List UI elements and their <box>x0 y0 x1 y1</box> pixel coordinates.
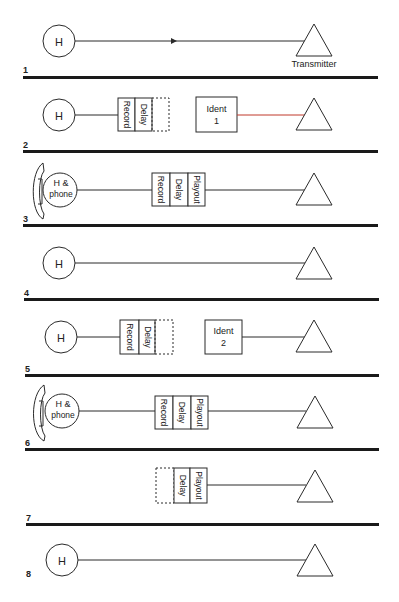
row-1: H Transmitter 1 <box>23 24 378 79</box>
transmitter-triangle-icon <box>296 24 332 56</box>
row-number: 6 <box>25 438 30 448</box>
row-number: 3 <box>23 214 28 224</box>
row-3: H & phone Record Delay Playout 3 <box>23 163 378 227</box>
playout-label: Playout <box>192 175 202 204</box>
record-delay-unit: Record Delay <box>120 320 173 354</box>
separator-line <box>23 224 378 227</box>
h-label: H <box>55 258 63 270</box>
record-delay-unit: Record Delay <box>118 98 169 131</box>
h-label: H <box>58 555 66 567</box>
transmitter-triangle-icon <box>296 98 332 130</box>
separator-line <box>23 76 378 79</box>
broadcast-delay-diagram: H Transmitter 1 H Record Delay Ident 1 2 <box>0 0 399 602</box>
ident-1-box: Ident 1 <box>196 97 237 132</box>
separator-line <box>25 448 379 451</box>
record-label: Record <box>125 323 135 351</box>
row-number: 2 <box>23 140 28 150</box>
separator-line <box>25 374 379 377</box>
delay-playout-unit: Delay Playout <box>156 468 207 503</box>
transmitter-triangle-icon <box>297 396 333 428</box>
delay-label: Delay <box>143 326 153 348</box>
row-number: 8 <box>26 569 31 579</box>
h-label: H <box>55 110 63 122</box>
transmitter-label: Transmitter <box>291 59 336 69</box>
h-label: H <box>55 36 63 48</box>
separator-line <box>26 523 379 526</box>
h-phone-label: phone <box>51 410 75 420</box>
h-phone-label: phone <box>49 189 73 199</box>
playout-label: Playout <box>194 471 204 500</box>
h-phone-label: H & <box>53 178 68 188</box>
ident-label: Ident <box>206 104 227 114</box>
delay-label: Delay <box>177 402 187 424</box>
record-label: Record <box>122 101 132 129</box>
record-label: Record <box>156 176 166 204</box>
row-6: H & phone Record Delay Playout 6 <box>25 385 379 451</box>
row-number: 1 <box>23 65 28 75</box>
separator-line <box>24 298 379 301</box>
row-number: 4 <box>24 288 29 298</box>
playout-label: Playout <box>195 398 205 427</box>
transmitter-triangle-icon <box>296 320 332 352</box>
ident-number: 2 <box>221 338 226 348</box>
delay-label: Delay <box>174 179 184 201</box>
ident-2-box: Ident 2 <box>205 320 242 354</box>
row-number: 7 <box>26 513 31 523</box>
ident-label: Ident <box>213 326 234 336</box>
row-7: Delay Playout 7 <box>26 468 379 526</box>
phone-handset-icon <box>34 385 46 441</box>
record-delay-playout-unit: Record Delay Playout <box>155 396 208 429</box>
row-4: H 4 <box>24 247 379 301</box>
h-label: H <box>57 332 65 344</box>
ident-number: 1 <box>214 116 219 126</box>
row-5: H Record Delay Ident 2 5 <box>25 320 379 377</box>
row-8: H 8 <box>26 544 333 579</box>
record-delay-playout-unit: Record Delay Playout <box>152 173 205 206</box>
transmitter-triangle-icon <box>297 470 333 502</box>
record-label: Record <box>159 399 169 427</box>
phone-handset-icon <box>33 163 44 219</box>
row-2: H Record Delay Ident 1 2 <box>23 97 378 153</box>
separator-line <box>23 150 378 153</box>
transmitter-triangle-icon <box>296 173 332 205</box>
delay-label: Delay <box>139 104 149 126</box>
delay-label: Delay <box>178 475 188 497</box>
row-number: 5 <box>25 364 30 374</box>
h-phone-label: H & <box>55 399 70 409</box>
